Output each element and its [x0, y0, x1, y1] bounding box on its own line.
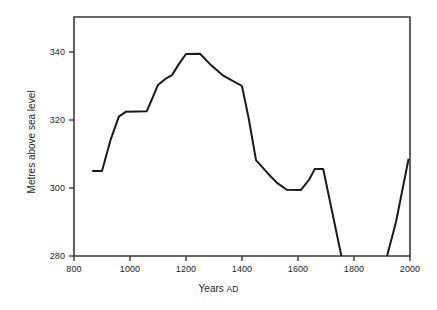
plot-frame: [74, 17, 410, 256]
y-axis-title: Metres above sea level: [22, 12, 42, 272]
data-series-line: [92, 54, 408, 256]
x-tick-label: 1000: [120, 264, 140, 274]
x-tick-label: 2000: [400, 264, 420, 274]
x-tick-label: 1800: [344, 264, 364, 274]
x-tick-label: 1200: [176, 264, 196, 274]
series-segment-main-record: [92, 54, 341, 256]
x-axis-title-main: Years: [199, 283, 227, 294]
x-tick-label: 1600: [288, 264, 308, 274]
x-tick-label: 800: [66, 264, 81, 274]
x-axis-title: Years AD: [0, 283, 437, 294]
chart-container: 280300320340 800100012001400160018002000…: [0, 0, 437, 310]
x-tick-label: 1400: [232, 264, 252, 274]
x-axis-title-era: AD: [227, 284, 239, 294]
series-segment-modern-record: [387, 159, 409, 256]
frame-outline: [74, 17, 410, 256]
